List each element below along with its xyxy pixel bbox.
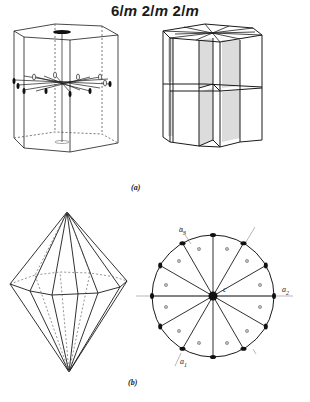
panel-label-a: (a) — [131, 183, 140, 192]
axis-subscript: 2 — [286, 290, 289, 296]
crystal-diagram — [0, 0, 310, 402]
hexagonal-prism-mirror-planes — [163, 24, 262, 147]
dihexagonal-dipyramid — [10, 212, 127, 372]
axis-subscript: 1 — [184, 362, 187, 368]
hexagonal-prism-symmetry-elements — [13, 24, 119, 152]
panel-label-b: (b) — [128, 378, 137, 387]
hexad-pole-icon — [209, 292, 218, 301]
axis-label-a3: a3 — [179, 225, 186, 236]
axis-label-a1: a1 — [180, 357, 187, 368]
stereographic-projection — [136, 227, 293, 366]
axis-subscript: 3 — [183, 230, 186, 236]
axis-label-c: c — [223, 285, 227, 294]
hexad-symbol-icon — [53, 30, 71, 34]
axis-label-a2: a2 — [282, 285, 289, 296]
